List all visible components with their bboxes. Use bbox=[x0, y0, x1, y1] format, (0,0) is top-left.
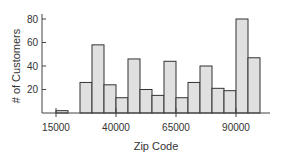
histogram-bar bbox=[236, 19, 248, 113]
histogram-bar bbox=[104, 85, 116, 113]
histogram-bar bbox=[140, 90, 152, 114]
histogram-bar bbox=[92, 45, 104, 113]
histogram-bar bbox=[152, 95, 164, 113]
y-ticks: 20406080 bbox=[27, 14, 46, 96]
y-tick-label: 20 bbox=[27, 84, 39, 95]
y-tick-label: 60 bbox=[27, 37, 39, 48]
y-tick-label: 80 bbox=[27, 14, 39, 25]
histogram-bar bbox=[80, 82, 92, 113]
x-tick-label: 15000 bbox=[42, 122, 70, 133]
y-axis-label: # of Customers bbox=[10, 28, 22, 103]
x-tick-label: 65000 bbox=[162, 122, 190, 133]
histogram-bar bbox=[248, 58, 260, 113]
histogram-bar bbox=[128, 59, 140, 113]
bars-group bbox=[56, 19, 260, 113]
histogram-bar bbox=[224, 91, 236, 113]
histogram-bar bbox=[212, 88, 224, 113]
x-tick-label: 90000 bbox=[222, 122, 250, 133]
histogram-chart: 20406080 15000400006500090000 Zip Code #… bbox=[0, 0, 287, 162]
y-tick-label: 40 bbox=[27, 61, 39, 72]
histogram-bar bbox=[200, 66, 212, 113]
x-axis-label: Zip Code bbox=[134, 140, 179, 152]
histogram-bar bbox=[176, 98, 188, 113]
histogram-bar bbox=[164, 61, 176, 113]
histogram-bar bbox=[116, 98, 128, 113]
histogram-bar bbox=[188, 82, 200, 113]
x-tick-label: 40000 bbox=[102, 122, 130, 133]
